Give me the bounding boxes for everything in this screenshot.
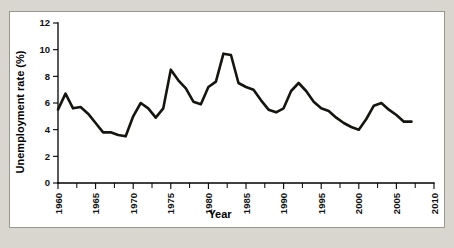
y-tick-label: 4 [45, 124, 51, 135]
data-series-group [58, 54, 411, 137]
x-tick-label: 2000 [353, 193, 364, 214]
x-tick-label: 2010 [429, 193, 440, 214]
x-tick-label: 1975 [165, 192, 176, 214]
x-axis-title: Year [208, 208, 232, 220]
y-tick-label: 0 [45, 177, 50, 188]
x-tick-label: 1990 [278, 193, 289, 214]
y-tick-label: 8 [45, 71, 50, 82]
y-tick-label: 10 [39, 44, 50, 55]
y-tick-label: 6 [45, 97, 50, 108]
x-tick-label: 2005 [391, 192, 402, 214]
x-axis: 1960196519701975198019851990199520002005… [53, 183, 440, 214]
x-tick-label: 1960 [53, 193, 64, 214]
y-axis: 024681012 [39, 17, 58, 188]
x-tick-label: 1970 [128, 193, 139, 214]
x-tick-label: 1985 [241, 192, 252, 214]
chart-card: 024681012 196019651970197519801985199019… [9, 11, 445, 228]
figure-root: 024681012 196019651970197519801985199019… [0, 0, 454, 248]
x-tick-label: 1995 [316, 192, 327, 214]
y-tick-label: 2 [45, 151, 50, 162]
y-tick-label: 12 [39, 17, 50, 28]
y-axis-title: Unemployment rate (%) [14, 50, 26, 173]
data-line-unemployment-rate [58, 54, 411, 137]
x-tick-label: 1965 [90, 192, 101, 214]
unemployment-line-chart: 024681012 196019651970197519801985199019… [10, 12, 446, 229]
